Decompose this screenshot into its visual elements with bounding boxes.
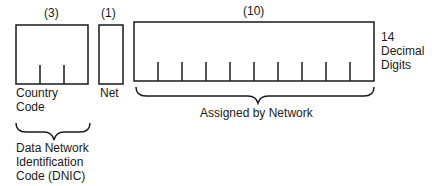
total-digits-line3: Digits xyxy=(381,58,411,72)
country-count-label: (3) xyxy=(44,6,59,20)
assigned-box xyxy=(134,22,374,81)
assigned-by-network-label: Assigned by Network xyxy=(200,106,313,120)
dnic-label-line1: Data Network xyxy=(16,141,89,155)
net-box xyxy=(99,25,123,84)
assigned-brace xyxy=(136,87,374,103)
dnic-label-line3: Code (DNIC) xyxy=(16,169,85,183)
country-code-label-line2: Code xyxy=(16,100,45,114)
total-digits-line1: 14 xyxy=(381,30,394,44)
dnic-label-line2: Identification xyxy=(16,155,83,169)
net-label: Net xyxy=(100,86,119,100)
net-count-label: (1) xyxy=(101,6,116,20)
assigned-count-label: (10) xyxy=(243,4,264,18)
dnic-brace xyxy=(16,123,90,140)
country-code-label-line1: Country xyxy=(16,86,58,100)
country-code-box xyxy=(16,25,88,84)
total-digits-line2: Decimal xyxy=(381,44,424,58)
